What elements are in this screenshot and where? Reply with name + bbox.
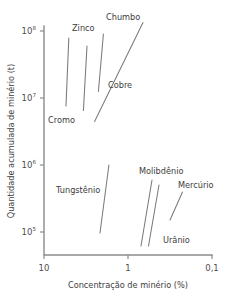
axes-group: [40, 26, 212, 259]
y-tick-label-1e8: 108: [22, 25, 37, 36]
y-axis-title: Quantidade acumulada de minério (t): [6, 64, 16, 219]
series-label-molibdenio: Molibdênio: [139, 166, 184, 176]
ore-concentration-chart: 108 107 106 105 10 1 0,1 Concentração de…: [0, 0, 233, 298]
y-tick-labels: 108 107 106 105: [22, 25, 37, 237]
y-tick-label-1e6: 106: [22, 159, 37, 170]
x-tick-label-10: 10: [39, 263, 50, 273]
series-label-chumbo: Chumbo: [106, 12, 140, 22]
x-tick-labels: 10 1 0,1: [39, 263, 219, 273]
series-line-zinco: [83, 46, 87, 111]
series-label-cromo: Cromo: [48, 115, 75, 125]
series-label-mercurio: Mercúrio: [178, 180, 214, 190]
series-line-mercurio: [170, 192, 183, 220]
x-axis-title: Concentração de minério (%): [68, 280, 188, 290]
series-lines-group: [66, 23, 183, 247]
axis-frame: [44, 26, 212, 255]
series-label-tungstenio: Tungstênio: [55, 185, 100, 195]
series-line-tungstenio: [100, 165, 109, 233]
series-line-chumbo: [98, 34, 103, 92]
series-label-cobre: Cobre: [108, 80, 132, 90]
series-label-zinco: Zinco: [72, 23, 95, 33]
series-line-cromo: [66, 38, 69, 106]
series-line-cobre: [95, 23, 143, 122]
series-label-uranio: Urânio: [163, 235, 190, 245]
x-tick-label-0-1: 0,1: [205, 263, 219, 273]
chart-plot-area: 108 107 106 105 10 1 0,1 Concentração de…: [0, 0, 233, 298]
x-tick-label-1: 1: [125, 263, 130, 273]
y-tick-label-1e5: 105: [22, 226, 37, 237]
y-tick-label-1e7: 107: [22, 92, 37, 103]
